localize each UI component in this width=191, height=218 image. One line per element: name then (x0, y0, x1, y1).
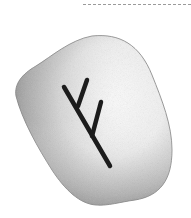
stone (0, 0, 191, 218)
rune-stone-illustration (0, 0, 191, 218)
